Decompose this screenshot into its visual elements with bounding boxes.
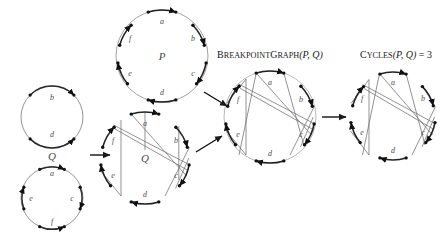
- arc-label-f: f: [129, 34, 133, 43]
- panel-genome-q-split: b d Q a c e f: [21, 86, 83, 229]
- arc-label-c: c: [174, 171, 178, 180]
- arc-label-e: e: [128, 69, 132, 78]
- arc-label-a: a: [160, 17, 164, 26]
- q-bottom-circle: a c e f: [21, 167, 83, 229]
- arrow-p-to-breakpoint: [204, 92, 227, 106]
- arc-label-b: b: [50, 93, 54, 102]
- arc-label-f: f: [51, 217, 55, 226]
- arc-label-f: f: [112, 136, 116, 145]
- caption-bpg-args: (P, Q): [299, 49, 323, 61]
- arc-label-d: d: [143, 190, 148, 199]
- caption-cycles-args: (P, Q): [393, 49, 417, 61]
- flow-arrows: [90, 92, 346, 155]
- arc-label-a: a: [143, 119, 147, 128]
- arc-label-d: d: [268, 149, 273, 158]
- arc-label-b: b: [191, 34, 195, 43]
- breakpoint-graph-figure: b d Q a c e f: [0, 0, 445, 249]
- caption-breakpoint-graph: BREAKPOINTGRAPH(P, Q): [217, 49, 324, 61]
- arrow-superimposed-to-breakpoint: [196, 136, 222, 152]
- caption-cycles: CYCLES(P, Q) = 3: [360, 49, 432, 61]
- arc-label-e: e: [111, 171, 115, 180]
- arc-label-d: d: [391, 146, 396, 155]
- caption-bpg-rest2: RAPH: [277, 51, 299, 60]
- arc-label-b: b: [299, 95, 303, 104]
- genome-label-q: Q: [48, 150, 56, 162]
- caption-cycles-rest: YCLES: [367, 51, 393, 60]
- arc-label-f: f: [361, 94, 365, 103]
- arc-label-e: e: [236, 130, 240, 139]
- arc-label-b: b: [421, 94, 425, 103]
- caption-bpg-rest1: REAKPOINT: [224, 51, 270, 60]
- arc-label-d: d: [160, 88, 165, 97]
- panel-genome-p: P a b c d e f: [116, 10, 208, 102]
- arc-label-f: f: [237, 95, 241, 104]
- arc-label-e: e: [29, 194, 33, 203]
- arc-label-c: c: [70, 194, 74, 203]
- panel-genome-q-superimposed: Q: [99, 112, 191, 204]
- arc-label-a: a: [50, 169, 54, 178]
- arc-label-a: a: [391, 78, 395, 87]
- genome-label-p: P: [158, 50, 166, 62]
- caption-cycles-eq: = 3: [416, 49, 432, 60]
- arc-label-d: d: [50, 130, 55, 139]
- arc-label-e: e: [360, 128, 364, 137]
- arc-label-c: c: [191, 69, 195, 78]
- arc-label-b: b: [174, 136, 178, 145]
- panel-breakpoint-graph: BREAKPOINTGRAPH(P, Q): [217, 49, 324, 163]
- panel-cycles: CYCLES(P, Q) = 3: [349, 49, 436, 160]
- caption-bpg-G: G: [270, 49, 277, 60]
- arc-label-c: c: [299, 130, 303, 139]
- genome-label-q-superimposed: Q: [141, 152, 149, 164]
- arc-label-c: c: [421, 128, 425, 137]
- arc-label-a: a: [268, 78, 272, 87]
- q-top-circle: b d: [21, 86, 83, 148]
